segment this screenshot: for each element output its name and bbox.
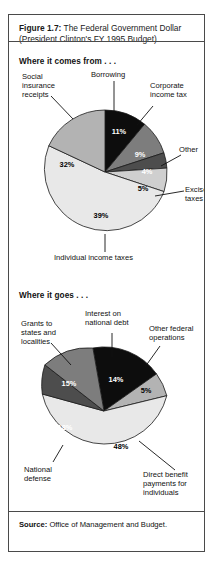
source-note: Source: Office of Management and Budget. [19,520,167,529]
value-other: 4% [142,167,153,176]
section-heading-outlays: Where it goes . . . [19,291,88,300]
caption-divider [9,41,205,42]
slice-direct-benefit-payments [42,394,167,444]
value-grants: 15% [62,379,77,388]
leader-excise [155,191,184,196]
label-social-insurance-receipts: Social insurance receipts [22,72,72,100]
slice-excise-taxes [105,168,167,192]
figure-number: Figure 1.7: [19,23,61,33]
slice-other [105,153,167,172]
source-text: Office of Management and Budget. [47,520,167,529]
source-divider [9,511,205,512]
label-corporate-income-tax: Corporate income tax [150,81,205,99]
source-label: Source: [19,520,47,529]
leader-other-federal [145,346,160,367]
leader-national-defense [53,445,63,462]
value-excise: 5% [138,184,149,193]
slice-other-federal-operations [104,374,167,411]
label-other-federal-operations: Other federal operations [149,324,205,342]
label-direct-benefit-payments: Direct benefit payments for individuals [143,470,205,498]
value-individual: 39% [94,211,109,220]
label-national-defense: National defense [24,465,66,483]
slice-individual-income-taxes [44,146,164,231]
label-borrowing: Borrowing [91,70,125,79]
leader-corporate [137,106,153,125]
value-direct-benefit: 48% [114,442,129,451]
slice-grants-to-states [45,348,104,411]
value-borrowing: 11% [112,127,127,136]
figure-frame: Figure 1.7: The Federal Government Dolla… [8,14,205,552]
slice-interest-national-debt [93,347,157,411]
value-other-federal: 5% [141,386,152,395]
label-grants-to-states: Grants to states and localities [21,319,75,347]
figure-caption: Figure 1.7: The Federal Government Dolla… [19,23,197,46]
value-social-insurance: 32% [60,160,75,169]
leader-other [161,155,181,166]
label-other: Other [179,145,198,154]
slice-social-insurance-receipts [49,110,105,172]
label-excise-taxes: Excise taxes [185,185,205,203]
label-individual-income-taxes: Individual income taxes [54,253,133,262]
slice-corporate-income-tax [105,124,164,172]
section-heading-income: Where it comes from . . . [19,57,116,66]
slice-borrowing [105,110,145,172]
value-interest: 14% [109,375,124,384]
leader-direct-benefit [139,441,175,470]
slice-national-defense [42,365,104,411]
label-interest-national-debt: Interest on national debt [85,309,145,327]
value-corporate: 9% [135,150,146,159]
value-national-defense: 18% [58,423,73,432]
